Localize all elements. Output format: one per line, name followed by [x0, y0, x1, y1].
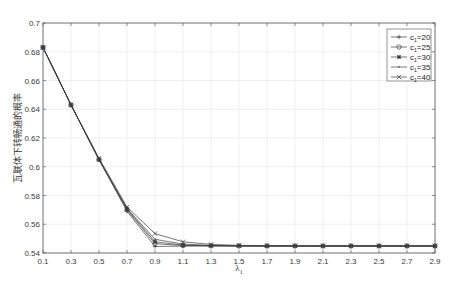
x-tick-label: 1.3: [205, 257, 217, 266]
x-tick-label: 2.3: [345, 257, 357, 266]
x-tick-label: 0.5: [93, 257, 105, 266]
y-tick-label: 0.66: [24, 77, 40, 86]
x-tick-label: 0.3: [65, 257, 77, 266]
y-tick-label: 0.62: [24, 134, 40, 143]
x-tick-label: 0.7: [121, 257, 133, 266]
legend-label: c1=30: [410, 53, 431, 63]
x-tick-label: 2.1: [317, 257, 329, 266]
line-chart: 0.10.30.50.70.91.11.31.51.71.92.12.32.52…: [0, 0, 456, 295]
x-tick-label: 2.5: [373, 257, 385, 266]
y-tick-label: 0.58: [24, 192, 40, 201]
x-tick-label: 0.1: [37, 257, 49, 266]
x-tick-label: 1.1: [177, 257, 189, 266]
y-tick-label: 0.6: [29, 163, 41, 172]
legend-label: c1=25: [410, 43, 431, 53]
y-axis-label: 瓦联体下转畅通的概率: [12, 93, 23, 183]
legend-label: c1=20: [410, 33, 431, 43]
y-tick-label: 0.64: [24, 105, 40, 114]
x-tick-label: 1.9: [289, 257, 301, 266]
y-tick-label: 0.68: [24, 48, 40, 57]
x-tick-label: 0.9: [149, 257, 161, 266]
x-tick-label: 2.7: [401, 257, 413, 266]
y-tick-label: 0.7: [29, 19, 41, 28]
y-tick-label: 0.54: [24, 249, 40, 258]
legend-label: c1=40: [410, 73, 431, 83]
x-tick-label: 1.7: [261, 257, 273, 266]
legend-label: c1=35: [410, 63, 431, 73]
y-axis-tick-labels: 0.540.560.580.60.620.640.660.680.7: [24, 19, 40, 258]
x-tick-label: 2.9: [429, 257, 441, 266]
legend: c1=20c1=25c1=30c1=35c1=40: [387, 29, 431, 83]
y-tick-label: 0.56: [24, 220, 40, 229]
